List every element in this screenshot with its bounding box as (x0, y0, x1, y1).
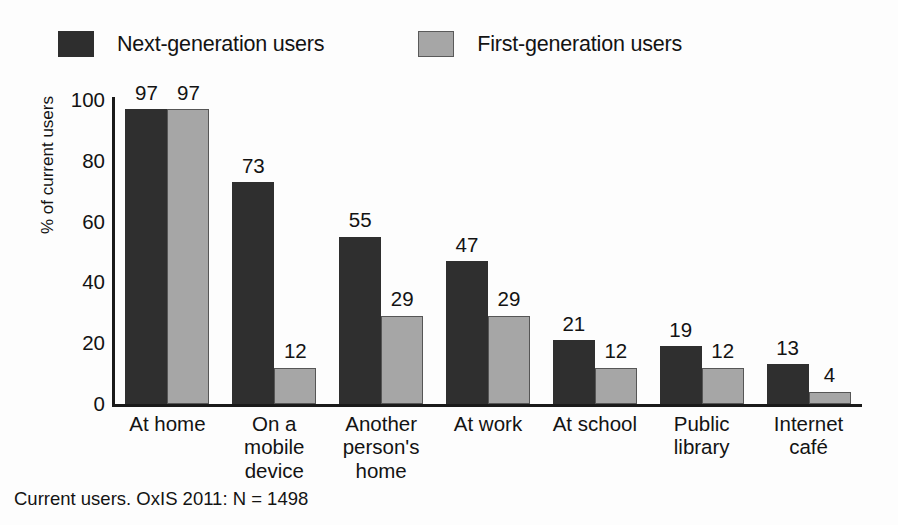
category-label-line: mobile (221, 435, 328, 458)
bar-value-label: 13 (776, 338, 799, 359)
category-label-line: At school (541, 412, 648, 435)
x-axis-category-label: Internetcafé (755, 412, 862, 459)
bar-first-generation (702, 368, 744, 404)
legend-swatch-icon-next-generation (58, 31, 94, 57)
legend-item-first-generation-users: First-generation users (418, 31, 682, 57)
bar-chart: Next-generation users First-generation u… (0, 0, 898, 525)
bar-column: 29 (381, 100, 423, 404)
y-axis-tick-label: 20 (82, 331, 105, 355)
category-label-line: library (648, 435, 755, 458)
bar-first-generation (167, 109, 209, 404)
bar-value-label: 73 (242, 156, 265, 177)
bar-value-label: 12 (604, 341, 627, 362)
legend-label-first-generation: First-generation users (477, 32, 682, 57)
bar-group: 4729 (446, 100, 530, 404)
category-label-line: At home (114, 412, 221, 435)
y-axis-tick-label: 60 (82, 210, 105, 234)
bar-next-generation (446, 261, 488, 404)
bar-value-label: 97 (177, 83, 200, 104)
bar-column: 19 (660, 100, 702, 404)
legend-swatch-icon-first-generation (418, 31, 454, 57)
y-axis-title: % of current users (38, 40, 58, 290)
bar-column: 21 (553, 100, 595, 404)
category-label-line: Internet (755, 412, 862, 435)
bar-column: 55 (339, 100, 381, 404)
x-axis-category-label: Anotherperson'shome (328, 412, 435, 482)
bar-column: 12 (274, 100, 316, 404)
x-axis-category-label: On amobiledevice (221, 412, 328, 482)
bar-column: 12 (595, 100, 637, 404)
category-label-line: On a (221, 412, 328, 435)
bar-column: 12 (702, 100, 744, 404)
bar-value-label: 4 (824, 365, 835, 386)
x-axis-category-label: At work (435, 412, 542, 435)
category-label-line: café (755, 435, 862, 458)
bar-group: 7312 (232, 100, 316, 404)
bar-first-generation (381, 316, 423, 404)
x-axis-category-label: At school (541, 412, 648, 435)
bar-first-generation (595, 368, 637, 404)
bar-value-label: 19 (669, 320, 692, 341)
bar-value-label: 12 (284, 341, 307, 362)
bar-group: 2112 (553, 100, 637, 404)
bar-first-generation (274, 368, 316, 404)
category-label-line: Another (328, 412, 435, 435)
bar-value-label: 21 (562, 314, 585, 335)
y-axis-tick-label: 40 (82, 270, 105, 294)
category-label-line: device (221, 459, 328, 482)
plot-area: 100806040200 979773125529472921121912134 (114, 100, 862, 404)
bar-group: 5529 (339, 100, 423, 404)
x-axis-line (112, 404, 862, 407)
bar-next-generation (125, 109, 167, 404)
bar-next-generation (339, 237, 381, 404)
bar-first-generation (488, 316, 530, 404)
bar-group: 134 (767, 100, 851, 404)
category-label-line: home (328, 459, 435, 482)
bar-next-generation (767, 364, 809, 404)
bar-column: 29 (488, 100, 530, 404)
x-axis-category-label: At home (114, 412, 221, 435)
bar-column: 47 (446, 100, 488, 404)
bar-value-label: 29 (498, 289, 521, 310)
bar-column: 73 (232, 100, 274, 404)
chart-legend: Next-generation users First-generation u… (58, 28, 682, 60)
y-axis-tick-label: 80 (82, 149, 105, 173)
legend-item-next-generation-users: Next-generation users (58, 31, 324, 57)
y-axis-tick-label: 100 (71, 88, 105, 112)
category-label-line: At work (435, 412, 542, 435)
legend-label-next-generation: Next-generation users (117, 32, 324, 57)
bar-group: 1912 (660, 100, 744, 404)
bar-column: 97 (125, 100, 167, 404)
category-label-line: person's (328, 435, 435, 458)
bar-column: 4 (809, 100, 851, 404)
bar-value-label: 55 (349, 210, 372, 231)
bar-first-generation (809, 392, 851, 404)
bar-value-label: 29 (391, 289, 414, 310)
x-axis-category-label: Publiclibrary (648, 412, 755, 459)
bar-next-generation (553, 340, 595, 404)
y-axis-tick-label: 0 (94, 392, 105, 416)
bar-next-generation (660, 346, 702, 404)
bar-value-label: 97 (135, 83, 158, 104)
bar-column: 13 (767, 100, 809, 404)
bar-column: 97 (167, 100, 209, 404)
bar-value-label: 47 (456, 235, 479, 256)
category-label-line: Public (648, 412, 755, 435)
y-axis-line (112, 97, 115, 406)
bar-group: 9797 (125, 100, 209, 404)
chart-footnote: Current users. OxIS 2011: N = 1498 (14, 488, 308, 510)
bar-next-generation (232, 182, 274, 404)
bar-value-label: 12 (711, 341, 734, 362)
